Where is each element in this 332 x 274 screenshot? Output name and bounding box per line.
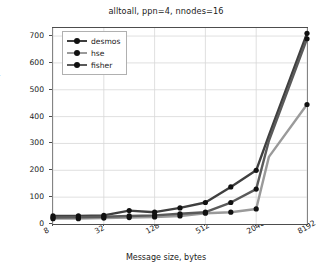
legend-item-desmos[interactable]: desmos [67, 35, 120, 47]
data-point [50, 215, 55, 220]
legend-label: fisher [91, 61, 112, 70]
legend-dot-icon [74, 38, 80, 44]
chart-title: alltoall, ppn=4, nnodes=16 [0, 6, 332, 16]
legend-marker-icon [67, 36, 87, 46]
data-point [228, 200, 233, 205]
y-tick-label: 500 [14, 84, 44, 93]
data-point [304, 31, 309, 36]
series-line [53, 105, 307, 219]
data-point [304, 102, 309, 107]
legend-label: hse [91, 49, 104, 58]
y-tick-label: 300 [14, 138, 44, 147]
legend-label: desmos [91, 37, 120, 46]
chart-figure: alltoall, ppn=4, nnodes=16 Time, usec Me… [0, 0, 332, 274]
y-tick-label: 400 [14, 111, 44, 120]
legend-item-hse[interactable]: hse [67, 47, 120, 59]
plot-area: desmos hse fisher [52, 27, 308, 225]
legend-marker-icon [67, 60, 87, 70]
y-tick-label: 200 [14, 165, 44, 174]
legend-marker-icon [67, 48, 87, 58]
legend-dot-icon [74, 50, 80, 56]
data-point [254, 206, 259, 211]
y-tick-label: 600 [14, 57, 44, 66]
y-tick-label: 100 [14, 192, 44, 201]
legend-dot-icon [74, 62, 80, 68]
x-axis-label: Message size, bytes [0, 253, 332, 262]
data-point [152, 213, 157, 218]
data-point [177, 211, 182, 216]
legend[interactable]: desmos hse fisher [62, 31, 127, 75]
data-point [203, 210, 208, 215]
data-point [203, 200, 208, 205]
data-point [254, 187, 259, 192]
data-point [304, 36, 309, 41]
data-point [254, 168, 259, 173]
y-axis-label: Time, usec [0, 53, 1, 96]
data-point [228, 210, 233, 215]
legend-item-fisher[interactable]: fisher [67, 59, 120, 71]
data-point [228, 184, 233, 189]
y-tick-label: 700 [14, 31, 44, 40]
y-tick-label: 0 [14, 219, 44, 228]
data-point [127, 208, 132, 213]
data-point [127, 213, 132, 218]
data-point [177, 205, 182, 210]
data-point [101, 214, 106, 219]
x-tick-label: 8 [42, 226, 51, 236]
data-point [76, 215, 81, 220]
